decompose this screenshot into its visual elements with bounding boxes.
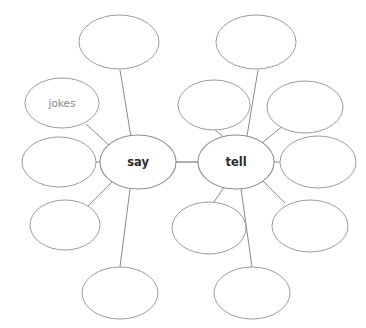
say-lower-left[interactable] (30, 200, 100, 250)
say-upper-left-label: jokes (48, 97, 76, 109)
tell-upper-left[interactable] (178, 80, 250, 130)
spoke-tell-lower-right (262, 180, 285, 203)
tell-lower-left-outline[interactable] (172, 202, 246, 254)
node-center[interactable]: tell (198, 135, 274, 189)
tell-right-outline[interactable] (280, 136, 356, 188)
say-left-outline[interactable] (22, 137, 96, 187)
spoke-say-upper-left (86, 124, 110, 146)
word-web-diagram: jokessaytell (0, 0, 366, 328)
spoke-say-lower-left (88, 182, 112, 206)
tell-upper-left-outline[interactable] (178, 80, 250, 130)
say-left[interactable] (22, 137, 96, 187)
tell-top-outline[interactable] (216, 15, 296, 69)
tell-bottom-outline[interactable] (214, 267, 290, 319)
tell-lower-right-outline[interactable] (272, 200, 348, 252)
tell-lower-left[interactable] (172, 202, 246, 254)
node-center-label: say (127, 155, 149, 169)
say-bottom[interactable] (82, 267, 158, 319)
tell-right[interactable] (280, 136, 356, 188)
node-layer: jokessaytell (22, 15, 356, 319)
tell-upper-right-outline[interactable] (267, 81, 343, 133)
spoke-say-bottom (120, 189, 130, 267)
spoke-tell-lower-left (214, 187, 224, 202)
tell-upper-right[interactable] (267, 81, 343, 133)
spoke-say-top (120, 70, 131, 137)
word-web-canvas: jokessaytell (0, 0, 366, 328)
say-lower-left-outline[interactable] (30, 200, 100, 250)
say-top[interactable] (79, 15, 159, 69)
node-center-label: tell (225, 155, 246, 169)
tell-top[interactable] (216, 15, 296, 69)
say-top-outline[interactable] (79, 15, 159, 69)
tell-lower-right[interactable] (272, 200, 348, 252)
node-center[interactable]: say (100, 135, 176, 189)
say-upper-left[interactable]: jokes (25, 78, 99, 128)
tell-bottom[interactable] (214, 267, 290, 319)
say-bottom-outline[interactable] (82, 267, 158, 319)
